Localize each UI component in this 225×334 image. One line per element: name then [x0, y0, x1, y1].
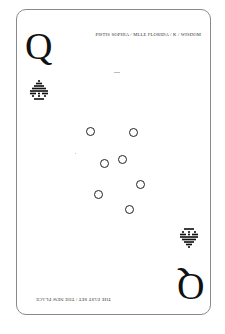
ring-1 [86, 127, 95, 136]
ring-3 [100, 159, 109, 168]
speck-mark [75, 153, 76, 154]
ring-4 [118, 155, 127, 164]
ring-2 [129, 128, 138, 137]
caption-top: PISTIS SOPHIA / MLLE FLORIDA / K / WISDO… [87, 32, 201, 37]
playing-card: Q PISTIS SOPHIA / MLLE FLORIDA / K / WIS… [16, 9, 211, 315]
dotted-spade-icon-inverted [177, 223, 201, 249]
caption-bottom: THE FAST SET / THE NEW PLACE [27, 297, 111, 302]
dash-mark [114, 72, 120, 73]
ring-7 [125, 205, 134, 214]
ring-5 [136, 180, 145, 189]
ring-6 [94, 190, 103, 199]
dotted-spade-icon [27, 79, 51, 105]
rank-top: Q [25, 27, 52, 65]
rank-bottom: Q [177, 268, 204, 306]
